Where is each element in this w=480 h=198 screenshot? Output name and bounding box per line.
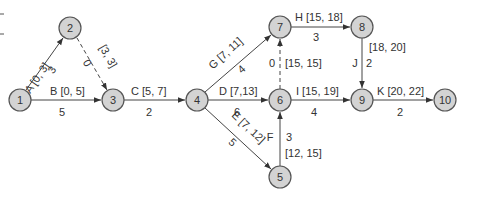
activity-duration-b: 5 [59,106,65,118]
activity-label-dummy-2-3: [3, 3] [97,42,120,69]
event-node-8: 8 [351,16,373,38]
event-node-label: 9 [359,94,365,106]
activity-duration-c: 2 [146,106,152,118]
event-node-6: 6 [269,89,291,111]
event-node-1: 1 [9,89,31,111]
activity-times-j: [18, 20] [369,41,406,53]
event-node-label: 8 [359,21,365,33]
activity-duration-j: 2 [366,57,372,69]
event-node-label: 4 [194,94,200,106]
event-node-7: 7 [269,16,291,38]
event-node-label: 1 [17,94,23,106]
event-node-label: 7 [277,21,283,33]
event-node-10: 10 [434,89,456,111]
activity-label-d: D [7,13] [219,85,258,97]
network-diagram: A [0, 3] 3 B [0, 5] 5 0 [3, 3] C [5, 7] … [0,0,480,198]
activity-label-b: B [0, 5] [50,85,85,97]
activity-label-c: C [5, 7] [131,85,166,97]
event-node-9: 9 [351,89,373,111]
activity-label-h: H [15, 18] [295,11,343,23]
event-node-label: 10 [439,94,451,106]
activity-duration-f: 3 [286,131,292,143]
event-node-3: 3 [102,89,124,111]
activity-duration-e: 5 [226,136,239,149]
activity-times-f: [12, 15] [285,147,322,159]
activity-duration-h: 3 [313,31,319,43]
event-node-label: 3 [110,94,116,106]
activity-duration-g: 4 [235,63,248,76]
event-node-label: 5 [277,171,283,183]
event-node-4: 4 [186,89,208,111]
activity-label-j: J [352,57,358,69]
activity-duration-k: 2 [397,106,403,118]
event-node-label: 6 [277,94,283,106]
activity-label-dummy-6-7: [15, 15] [285,57,322,69]
activity-duration-a: 3 [45,64,58,76]
activity-label-f: F [267,131,274,143]
event-node-label: 2 [67,22,73,34]
activity-duration-dummy-2-3: 0 [81,57,94,68]
activity-label-k: K [20, 22] [377,85,424,97]
activity-duration-i: 4 [311,106,317,118]
activity-label-i: I [15, 19] [296,85,339,97]
event-node-2: 2 [59,17,81,39]
event-node-5: 5 [269,166,291,188]
activity-duration-dummy-6-7: 0 [269,57,275,69]
